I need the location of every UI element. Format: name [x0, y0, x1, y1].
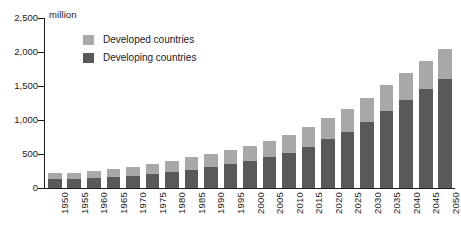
- y-axis-tick: [38, 154, 45, 155]
- x-axis-tick-label: 2005: [274, 192, 285, 214]
- x-axis-tick-label: 1995: [235, 192, 246, 214]
- bar-column[interactable]: [204, 154, 218, 188]
- bar-segment-developing[interactable]: [263, 157, 277, 188]
- bar-column[interactable]: [107, 169, 121, 188]
- bar-segment-developing[interactable]: [341, 132, 355, 188]
- x-axis-tick-label: 1960: [98, 192, 109, 214]
- legend-swatch-developing-icon: [83, 53, 94, 63]
- legend-item-developed: Developed countries: [83, 32, 196, 47]
- bar-segment-developed[interactable]: [204, 154, 218, 167]
- bar-segment-developed[interactable]: [165, 161, 179, 172]
- bar-column[interactable]: [243, 146, 257, 189]
- y-axis-tick: [38, 18, 45, 19]
- bar-segment-developing[interactable]: [224, 164, 238, 188]
- bar-column[interactable]: [341, 109, 355, 188]
- bar-column[interactable]: [224, 150, 238, 188]
- bar-segment-developed[interactable]: [341, 109, 355, 131]
- bar-segment-developed[interactable]: [263, 141, 277, 158]
- y-axis-tick: [38, 52, 45, 53]
- x-axis-tick-label: 2050: [450, 192, 461, 214]
- x-axis-tick-label: 1990: [215, 192, 226, 214]
- bar-segment-developed[interactable]: [185, 157, 199, 169]
- x-axis-tick-label: 1965: [118, 192, 129, 214]
- bar-column[interactable]: [87, 171, 101, 188]
- x-axis-tick-label: 2045: [430, 192, 441, 214]
- y-axis-tick: [38, 120, 45, 121]
- bar-segment-developing[interactable]: [243, 161, 257, 188]
- legend-label-developed: Developed countries: [103, 34, 194, 45]
- bar-segment-developing[interactable]: [48, 179, 62, 188]
- bar-column[interactable]: [126, 167, 140, 188]
- bar-column[interactable]: [185, 157, 199, 188]
- bar-segment-developing[interactable]: [107, 177, 121, 188]
- y-axis-tick: [38, 188, 45, 189]
- bar-segment-developing[interactable]: [419, 89, 433, 188]
- x-axis-tick-label: 1975: [157, 192, 168, 214]
- bar-column[interactable]: [67, 173, 81, 188]
- bar-column[interactable]: [48, 173, 62, 188]
- bar-segment-developing[interactable]: [165, 172, 179, 188]
- bar-segment-developing[interactable]: [380, 111, 394, 188]
- legend-item-developing: Developing countries: [83, 50, 196, 65]
- x-axis-line: [44, 188, 455, 189]
- x-axis-tick-label: 2020: [333, 192, 344, 214]
- bar-segment-developed[interactable]: [224, 150, 238, 164]
- x-axis-tick-label: 2030: [372, 192, 383, 214]
- x-axis-tick-label: 1970: [137, 192, 148, 214]
- bar-segment-developed[interactable]: [126, 167, 140, 176]
- bar-column[interactable]: [282, 135, 296, 188]
- bar-segment-developed[interactable]: [419, 61, 433, 90]
- bar-segment-developed[interactable]: [321, 118, 335, 139]
- y-axis-tick-label: 2,500: [4, 12, 38, 23]
- bar-segment-developed[interactable]: [399, 73, 413, 100]
- bar-column[interactable]: [302, 127, 316, 188]
- bar-segment-developing[interactable]: [87, 178, 101, 188]
- bar-column[interactable]: [321, 118, 335, 188]
- bar-segment-developing[interactable]: [67, 179, 81, 188]
- bar-segment-developing[interactable]: [146, 174, 160, 188]
- x-axis-tick-label: 2035: [391, 192, 402, 214]
- bar-segment-developing[interactable]: [302, 147, 316, 188]
- bar-segment-developed[interactable]: [243, 146, 257, 161]
- bar-segment-developing[interactable]: [321, 139, 335, 188]
- x-axis-tick-label: 2015: [313, 192, 324, 214]
- y-axis-tick-label: 1,500: [4, 80, 38, 91]
- bar-column[interactable]: [419, 61, 433, 188]
- bar-segment-developed[interactable]: [360, 98, 374, 122]
- x-axis-tick-label: 2025: [352, 192, 363, 214]
- bar-segment-developing[interactable]: [126, 176, 140, 188]
- x-axis-tick-label: 2040: [411, 192, 422, 214]
- bar-column[interactable]: [438, 49, 452, 188]
- bar-segment-developing[interactable]: [185, 170, 199, 188]
- legend-swatch-developed-icon: [83, 35, 94, 45]
- bar-segment-developing[interactable]: [438, 79, 452, 188]
- y-axis-tick-label: 0: [4, 182, 38, 193]
- x-axis-tick-label: 1950: [59, 192, 70, 214]
- bar-column[interactable]: [263, 141, 277, 188]
- bar-segment-developed[interactable]: [438, 49, 452, 79]
- y-axis-tick-label: 1,000: [4, 114, 38, 125]
- bar-segment-developing[interactable]: [399, 100, 413, 188]
- legend-label-developing: Developing countries: [103, 52, 196, 63]
- bar-segment-developing[interactable]: [204, 167, 218, 188]
- bar-segment-developing[interactable]: [282, 153, 296, 188]
- bar-segment-developed[interactable]: [107, 169, 121, 177]
- bar-segment-developing[interactable]: [360, 122, 374, 188]
- bar-segment-developed[interactable]: [380, 85, 394, 111]
- x-axis-tick-label: 2000: [255, 192, 266, 214]
- x-axis-tick-label: 2010: [294, 192, 305, 214]
- y-axis-tick-labels: 2,5002,0001,5001,0005000: [0, 0, 38, 247]
- y-axis-tick: [38, 86, 45, 87]
- bar-segment-developed[interactable]: [146, 164, 160, 174]
- bar-column[interactable]: [380, 85, 394, 188]
- bar-column[interactable]: [360, 98, 374, 188]
- bar-segment-developed[interactable]: [302, 127, 316, 147]
- y-axis-tick-label: 2,000: [4, 46, 38, 57]
- bar-column[interactable]: [165, 161, 179, 188]
- bar-segment-developed[interactable]: [282, 135, 296, 153]
- bar-column[interactable]: [146, 164, 160, 188]
- bar-column[interactable]: [399, 73, 413, 188]
- bar-segment-developed[interactable]: [87, 171, 101, 178]
- chart-legend: Developed countries Developing countries: [83, 32, 196, 68]
